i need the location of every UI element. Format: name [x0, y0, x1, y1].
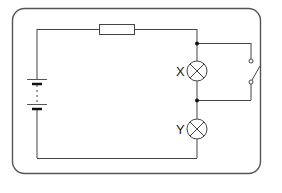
circuit-diagram: X Y	[0, 0, 282, 193]
lamp-x-icon	[187, 61, 207, 81]
resistor-icon	[100, 25, 135, 35]
lamp-x-label: X	[176, 64, 185, 79]
junction-dot	[195, 99, 199, 103]
switch-icon	[249, 59, 260, 84]
junction-dot	[195, 42, 199, 46]
lamp-y-label: Y	[176, 122, 185, 137]
diagram-frame	[13, 9, 261, 174]
wires	[37, 29, 251, 159]
lamp-y-icon	[187, 119, 207, 139]
battery-icon	[27, 80, 47, 110]
